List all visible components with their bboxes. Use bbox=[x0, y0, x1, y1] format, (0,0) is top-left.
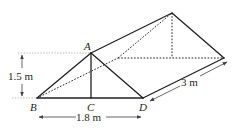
height-label: 1.5 m bbox=[8, 70, 34, 82]
vertex-label-C: C bbox=[87, 101, 95, 113]
edge-AD bbox=[91, 53, 143, 98]
prism-diagram: 1.5 m 1.8 m 3 m A B C D bbox=[0, 0, 236, 129]
length-arrow-up bbox=[200, 62, 227, 76]
vertex-label-D: D bbox=[138, 101, 147, 113]
length-arrow-down bbox=[150, 86, 180, 101]
length-label: 3 m bbox=[181, 76, 198, 88]
vertex-label-A: A bbox=[83, 40, 91, 52]
edge-back-right bbox=[172, 13, 224, 58]
vertex-label-B: B bbox=[30, 101, 37, 113]
edge-AB bbox=[37, 53, 91, 98]
